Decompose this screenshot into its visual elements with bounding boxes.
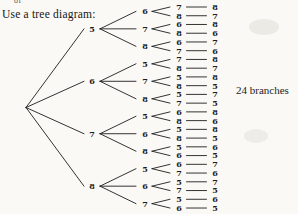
tree-node-label-level3: 6 (176, 203, 182, 213)
branch-line-level1 (26, 108, 84, 187)
branch-line-level1 (26, 108, 84, 134)
branch-line-level3 (152, 182, 170, 186)
scan-smudge (244, 129, 268, 143)
tree-node-label-level2: 8 (142, 146, 148, 156)
branch-line-level2 (100, 81, 136, 98)
branch-line-level3 (152, 46, 170, 50)
branch-line-level1 (26, 29, 84, 108)
branch-line-level2 (100, 116, 136, 133)
branch-line-level3 (152, 186, 170, 190)
branch-line-level3 (152, 134, 170, 138)
branch-line-level3 (152, 77, 170, 81)
branch-count-label: 24 branches (236, 84, 289, 96)
tree-node-label-level2: 6 (142, 6, 148, 16)
tree-node-label-level2: 8 (142, 41, 148, 51)
branch-line-level3 (152, 11, 170, 15)
branch-line-level3 (152, 29, 170, 33)
branch-line-level2 (100, 134, 136, 151)
branch-line-level2 (100, 11, 136, 28)
branch-line-level3 (152, 116, 170, 120)
tree-node-label-level2: 5 (142, 164, 148, 174)
tree-node-label-level1: 8 (89, 181, 95, 191)
tree-node-label-level4: 5 (212, 203, 218, 213)
branch-line-level3 (152, 147, 170, 151)
tree-node-label-level1: 5 (89, 24, 95, 34)
branch-line-level3 (152, 99, 170, 103)
branch-line-level3 (152, 199, 170, 203)
tree-node-label-level2: 6 (142, 129, 148, 139)
tree-diagram: 5678877688686776657887758858577575688665… (0, 0, 298, 214)
branch-line-level3 (152, 81, 170, 85)
branch-line-level2 (100, 169, 136, 186)
textbook-page: of Use a tree diagram: 56788776886867766… (0, 0, 298, 214)
branch-line-level3 (152, 24, 170, 28)
branch-line-level3 (152, 7, 170, 11)
branch-line-level3 (152, 129, 170, 133)
branch-line-level2 (100, 186, 136, 203)
branch-line-level3 (152, 204, 170, 208)
branch-line-level3 (152, 59, 170, 63)
tree-node-label-level2: 5 (142, 111, 148, 121)
branch-line-level2 (100, 29, 136, 46)
scan-smudge (249, 19, 279, 35)
branch-line-level3 (152, 94, 170, 98)
branch-line-level3 (152, 169, 170, 173)
branch-line-level3 (152, 164, 170, 168)
tree-node-label-level2: 6 (142, 181, 148, 191)
branch-line-level3 (152, 64, 170, 68)
tree-node-label-level1: 6 (89, 76, 95, 86)
branch-line-level2 (100, 64, 136, 81)
tree-node-label-level2: 7 (142, 24, 148, 34)
branch-line-level1 (26, 81, 84, 107)
branch-line-level3 (152, 42, 170, 46)
branch-line-level3 (152, 112, 170, 116)
tree-node-label-level2: 7 (142, 199, 148, 209)
tree-node-label-level2: 7 (142, 76, 148, 86)
tree-node-label-level2: 5 (142, 59, 148, 69)
tree-node-label-level2: 8 (142, 94, 148, 104)
branch-line-level3 (152, 151, 170, 155)
tree-node-label-level1: 7 (89, 129, 95, 139)
